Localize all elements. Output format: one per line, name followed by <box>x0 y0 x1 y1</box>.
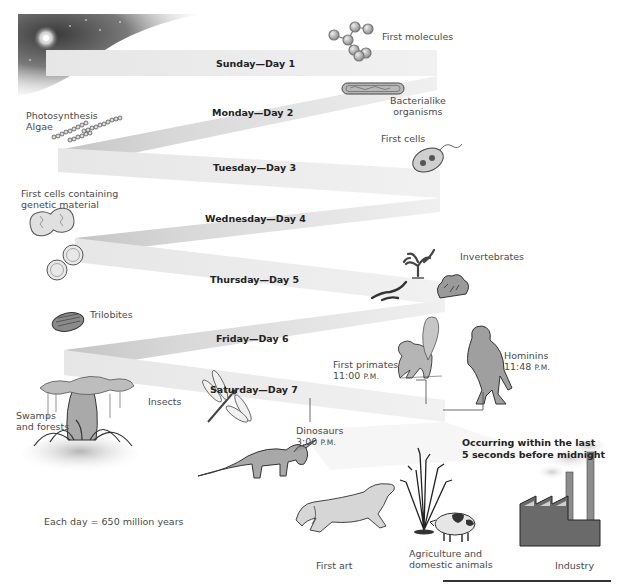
label-insects: Insects <box>148 396 182 407</box>
ribbon-timeline-graphic <box>0 0 626 586</box>
day-label-tuesday: Tuesday—Day 3 <box>213 162 296 173</box>
label-hominins: Hominins 11:48 P.M. <box>504 350 550 373</box>
trilobite-icon <box>50 310 85 334</box>
primate-icon <box>398 317 442 404</box>
day-label-wednesday: Wednesday—Day 4 <box>205 213 306 224</box>
pig-icon <box>430 513 475 542</box>
callout-last-5-seconds: Occurring within the last 5 seconds befo… <box>462 437 605 461</box>
day-label-thursday: Thursday—Day 5 <box>210 274 299 285</box>
day-label-monday: Monday—Day 2 <box>212 107 293 118</box>
label-genetic-material: First cells containing genetic material <box>21 188 118 210</box>
band-thursday <box>75 238 445 305</box>
day-label-friday: Friday—Day 6 <box>216 333 289 344</box>
label-first-art: First art <box>316 560 352 571</box>
bottom-rule-divider <box>443 580 611 582</box>
dividing-cell-icon <box>28 206 83 280</box>
label-invertebrates: Invertebrates <box>460 251 524 262</box>
label-trilobites: Trilobites <box>90 309 133 320</box>
label-swamps-forests: Swamps and forests <box>16 410 69 432</box>
label-agriculture: Agriculture and domestic animals <box>409 548 493 570</box>
label-photosynthesis: Photosynthesis Algae <box>26 110 98 132</box>
cave-art-horse-icon <box>296 484 394 532</box>
band-wednesday <box>75 198 440 250</box>
label-first-primates: First primates 11:00 P.M. <box>333 359 398 382</box>
label-first-cells: First cells <box>381 133 425 144</box>
bacteria-icon <box>342 83 404 94</box>
earth-history-calendar-diagram: Sunday—Day 1 Monday—Day 2 Tuesday—Day 3 … <box>0 0 626 586</box>
scale-note: Each day = 650 million years <box>44 516 184 527</box>
label-first-molecules: First molecules <box>382 31 453 42</box>
label-industry: Industry <box>555 560 594 571</box>
label-dinosaurs: Dinosaurs 3:00 P.M. <box>296 425 343 448</box>
hominin-icon <box>443 326 512 410</box>
day-label-sunday: Sunday—Day 1 <box>216 58 295 69</box>
day-label-saturday: Saturday—Day 7 <box>210 384 298 395</box>
label-bacterialike: Bacterialike organisms <box>390 95 446 117</box>
